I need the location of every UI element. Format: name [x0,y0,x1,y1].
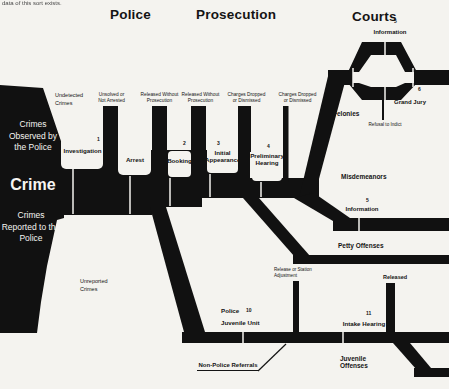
header-courts: Courts [352,9,397,24]
header-police: Police [110,7,151,22]
label-crimes-reported: Crimes Reported to the Police [0,210,62,245]
footnote-3: 3 [217,141,220,147]
information-upper-branch [348,42,417,72]
released-bar [386,283,395,333]
label-unreported-crimes: Unreported Crimes [80,278,114,293]
label-information-top: Information [368,29,412,36]
footnote-10: 10 [246,308,252,314]
cutoff-page-text: data of this sort exists. [2,0,62,7]
label-released: Released [383,274,417,280]
non-police-referrals-line [258,344,286,371]
header-prosecution: Prosecution [196,7,276,22]
footnote-2: 2 [183,141,186,147]
juvenile-branch [150,207,205,332]
label-police-juvenile-unit-line2: Juvenile Unit [221,319,261,326]
label-felonies: Felonies [333,110,369,117]
criminal-justice-flow-diagram: data of this sort exists. Police Prosecu… [0,0,449,389]
footnote-1: 1 [97,137,100,143]
label-booking: Booking [166,157,193,164]
label-misdemeanors: Misdemeanors [341,173,395,180]
label-investigation: Investigation [61,147,104,154]
footnote-4: 4 [267,144,270,150]
footnote-5-mid: 5 [366,198,369,204]
label-released-wo-prosecution-1: Released Without Prosecution [139,92,180,103]
petty-offenses-branch [243,198,310,256]
label-non-police-referrals: Non-Police Referrals [197,362,259,371]
label-unsolved-not-arrested: Unsolved or Not Arrested [95,92,128,103]
release-station-line [293,281,299,333]
label-crime: Crime [3,176,63,194]
footnote-6: 6 [418,87,421,93]
juvenile-band [182,332,449,343]
label-release-or-station-adjustment: Release or Station Adjustment [274,267,316,278]
label-initial-appearance: Initial Appearance [205,149,240,164]
refusal-to-indict-line [382,100,384,120]
felony-branch [299,72,345,198]
exit-bar-unsolved [103,106,118,152]
exit-bar-released-2 [191,106,206,152]
courts-stem [328,70,353,85]
label-arrest: Arrest [119,156,151,163]
label-information-mid: Information [342,206,382,213]
label-undetected-crimes: Undetected Crimes [55,92,87,107]
exit-bar-charges-2 [283,106,289,182]
courts-merged-band [414,70,449,85]
information-mid-band [333,218,449,231]
label-preliminary-hearing: Preliminary Hearing [248,152,286,167]
label-charges-dropped-1: Charges Dropped or Dismissed [226,92,267,103]
grand-jury-branch [348,83,417,100]
label-charges-dropped-2: Charges Dropped or Dismissed [277,92,318,103]
exit-bar-charges-1 [238,106,251,152]
exit-bar-released-1 [152,106,167,152]
juvenile-offenses-band [414,368,449,377]
footnote-5-top: 5 [394,19,397,25]
label-refusal-to-indict: Refusal to Indict [362,122,408,128]
label-released-wo-prosecution-2: Released Without Prosecution [180,92,221,103]
footnote-11: 11 [366,311,371,317]
label-grand-jury: Grand Jury [394,99,434,106]
juvenile-offenses-branch [393,343,431,369]
label-juvenile-offenses: Juvenile Offenses [340,355,392,370]
label-crimes-observed: Crimes Observed by the Police [3,119,63,154]
flow-shapes [0,0,449,389]
label-intake-hearing: Intake Hearing [342,320,386,327]
petty-offenses-band [293,255,449,264]
label-police-juvenile-unit-line1: Police [221,307,245,314]
label-petty-offenses: Petty Offenses [338,242,388,249]
